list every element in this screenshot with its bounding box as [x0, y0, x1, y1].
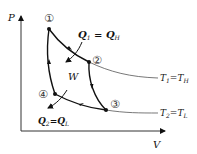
heat-in-label: Q1 = QH — [78, 29, 121, 41]
heat-out-label: Q2=QL — [38, 116, 69, 127]
vertex-3-label: ③ — [110, 98, 120, 111]
carnot-cycle-diagram: P V ① ② ③ ④ Q1 = QH W Q2=QL — [0, 0, 197, 154]
vertex-1 — [47, 27, 51, 31]
vertex-4 — [53, 92, 57, 96]
vertex-4-label: ④ — [38, 88, 48, 101]
vertex-3 — [104, 108, 108, 112]
vertex-2 — [87, 60, 91, 64]
v-axis-label: V — [153, 139, 162, 150]
vertex-2-label: ② — [92, 54, 102, 67]
isotherm-high-label: T1=TH — [160, 73, 189, 84]
isotherm-low-label: T2=TL — [160, 108, 187, 119]
p-axis-label: P — [7, 12, 15, 23]
work-label: W — [68, 71, 79, 82]
vertex-1-label: ① — [44, 12, 54, 25]
cycle-path — [48, 29, 106, 110]
heat-in-arrow — [66, 42, 82, 62]
